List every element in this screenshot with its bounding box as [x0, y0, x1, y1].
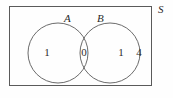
- set-b-label: B: [97, 13, 104, 24]
- region-count-b-only: 1: [113, 47, 129, 58]
- region-count-a-only: 1: [39, 47, 55, 58]
- set-a-label: A: [64, 13, 71, 24]
- universal-set-label: S: [158, 4, 164, 15]
- region-count-outside: 4: [131, 47, 147, 58]
- venn-diagram-figure: S A B 1 0 1 4: [0, 0, 173, 98]
- region-count-intersection: 0: [76, 47, 92, 58]
